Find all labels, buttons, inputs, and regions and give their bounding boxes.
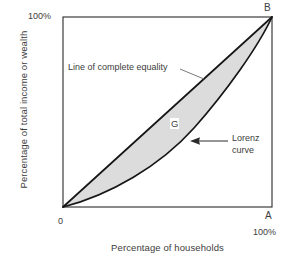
point-b-label: B (264, 2, 271, 14)
origin-tick-label: 0 (58, 216, 63, 227)
lorenz-curve-figure: Percentage of total income or wealth Per… (0, 0, 299, 262)
lorenz-curve-label: Lorenzcurve (232, 133, 260, 156)
y-axis-tick-100: 100% (28, 11, 51, 22)
equality-line (63, 17, 272, 207)
equality-label-leader (180, 69, 204, 79)
gap-region-label: G (170, 118, 179, 129)
lorenz-curve-label-line1: Lorenz (232, 133, 260, 143)
chart-canvas (0, 0, 299, 262)
point-a-label: A (265, 210, 272, 222)
y-axis-title: Percentage of total income or wealth (18, 30, 29, 190)
x-axis-tick-100: 100% (253, 227, 276, 238)
lorenz-label-arrow-head (190, 137, 200, 144)
lorenz-curve-label-line2: curve (232, 145, 254, 155)
x-axis-title: Percentage of households (63, 242, 272, 253)
equality-line-label: Line of complete equality (68, 62, 168, 73)
